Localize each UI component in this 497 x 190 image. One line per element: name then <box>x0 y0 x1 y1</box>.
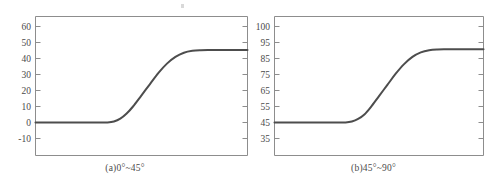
chart-b-ytick-label: 55 <box>261 102 271 112</box>
chart-b-data-curve <box>275 49 484 122</box>
figure-root: 60 50 40 30 20 10 0 -10 (a)0°~45° <box>0 0 497 190</box>
chart-b-frame <box>275 17 484 156</box>
chart-a-ytick-label: 50 <box>22 38 32 48</box>
chart-a-plot: 60 50 40 30 20 10 0 -10 <box>0 0 250 160</box>
chart-b-ytick-label: 75 <box>261 70 271 80</box>
chart-a-caption: (a)0°~45° <box>0 163 250 173</box>
chart-b-ytick-label: 100 <box>256 22 271 32</box>
chart-a-ytick-label: -10 <box>18 134 31 144</box>
chart-b-ytick-label: 95 <box>261 38 271 48</box>
chart-b-plot: 100 95 85 75 65 55 45 35 <box>250 0 497 160</box>
chart-a-yticks-right <box>243 27 248 139</box>
chart-a-ytick-label: 0 <box>26 118 31 128</box>
chart-a-ytick-label: 30 <box>22 70 32 80</box>
chart-a-ytick-label: 10 <box>22 102 32 112</box>
chart-b-ytick-label: 85 <box>261 54 271 64</box>
chart-a-ytick-label: 40 <box>22 54 32 64</box>
chart-b-ytick-label: 35 <box>261 134 271 144</box>
chart-a-data-curve <box>36 50 248 123</box>
chart-b-ytick-labels: 100 95 85 75 65 55 45 35 <box>256 22 271 144</box>
chart-a-ytick-labels: 60 50 40 30 20 10 0 -10 <box>18 22 31 144</box>
chart-b-ytick-label: 45 <box>261 118 271 128</box>
chart-a-frame <box>36 17 248 156</box>
chart-a-ytick-label: 60 <box>22 22 32 32</box>
chart-panel-a: 60 50 40 30 20 10 0 -10 (a)0°~45° <box>0 0 250 190</box>
chart-b-yticks-right <box>479 27 484 139</box>
chart-b-ytick-label: 65 <box>261 86 271 96</box>
chart-a-ytick-label: 20 <box>22 86 32 96</box>
chart-b-caption: (b)45°~90° <box>250 163 497 173</box>
chart-panel-b: 100 95 85 75 65 55 45 35 (b)45°~90° <box>250 0 497 190</box>
